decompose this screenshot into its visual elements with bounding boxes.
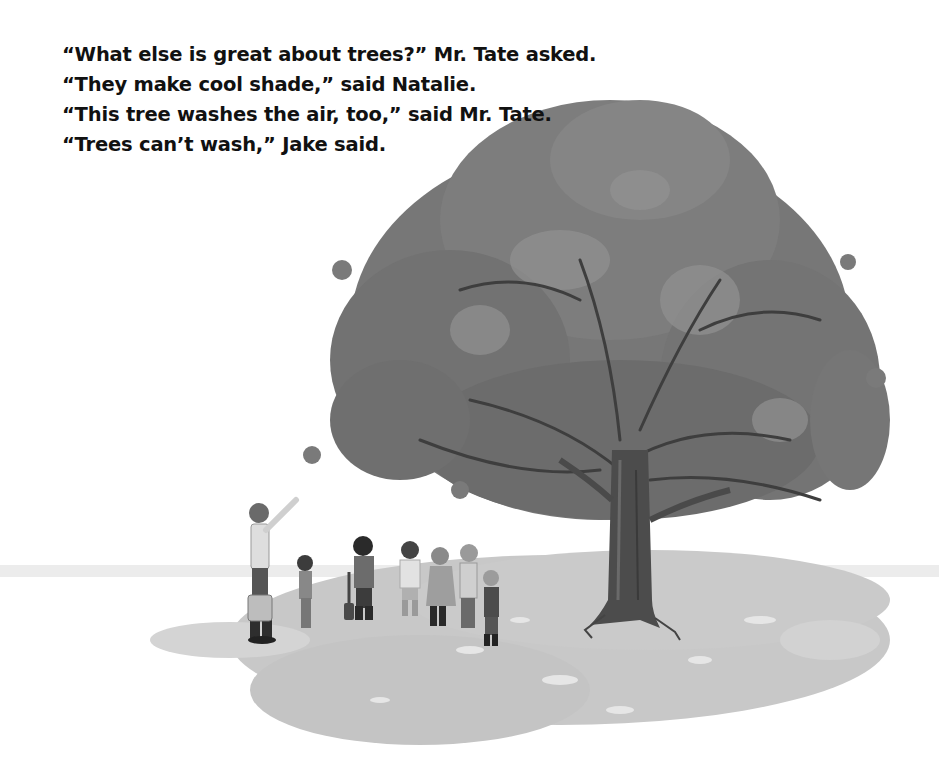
story-line-3: “This tree washes the air, too,” said Mr… (62, 100, 596, 130)
tree-canopy (303, 100, 890, 520)
figure-child-2 (344, 536, 374, 620)
figure-child-6 (483, 570, 499, 646)
story-line-4: “Trees can’t wash,” Jake said. (62, 130, 596, 160)
story-text: “What else is great about trees?” Mr. Ta… (62, 40, 596, 160)
story-line-2: “They make cool shade,” said Natalie. (62, 70, 596, 100)
story-line-1: “What else is great about trees?” Mr. Ta… (62, 40, 596, 70)
storybook-page: “What else is great about trees?” Mr. Ta… (0, 0, 939, 777)
